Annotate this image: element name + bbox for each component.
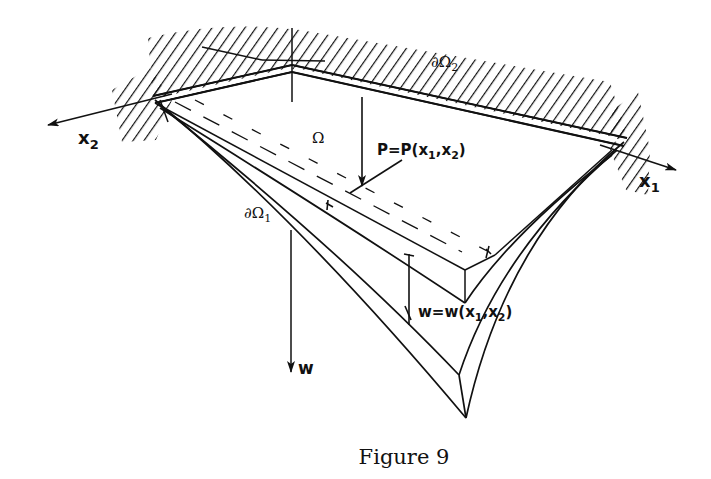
domain-label: Ω (312, 129, 324, 147)
figure-caption: Figure 9 (359, 445, 450, 469)
x2-axis-label: x2 (78, 127, 99, 152)
undeflected-midline (175, 100, 495, 255)
w-axis-label: w (298, 358, 314, 378)
plate-deflection-diagram: x2 x1 w Ω ∂Ω1 ∂Ω2 P=P(x1,x2) w=w(x1,x2) … (0, 0, 711, 479)
boundary-1-label: ∂Ω1 (244, 204, 271, 225)
deflection-label: w=w(x1,x2) (418, 303, 512, 324)
load-label: P=P(x1,x2) (377, 141, 466, 162)
plate-thickness-face (155, 103, 612, 303)
